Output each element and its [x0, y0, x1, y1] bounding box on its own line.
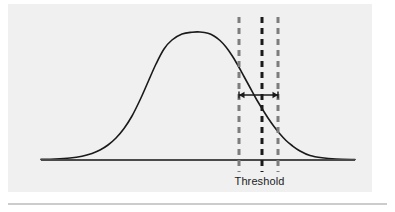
distribution-chart-svg — [0, 0, 395, 212]
threshold-distribution-figure: Threshold — [0, 0, 395, 212]
